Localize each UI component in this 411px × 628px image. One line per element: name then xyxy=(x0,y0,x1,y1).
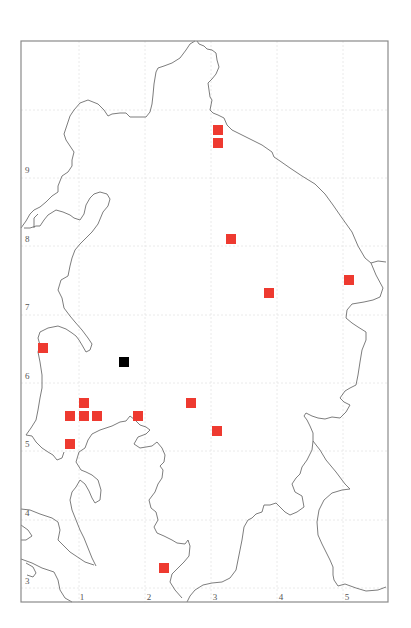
x-axis-label: 3 xyxy=(213,592,218,602)
record-marker-red xyxy=(212,426,222,436)
grid-lines xyxy=(21,41,388,602)
y-axis-label: 4 xyxy=(25,508,30,518)
coastline-east-bay xyxy=(313,441,386,591)
record-marker-red xyxy=(92,411,102,421)
coastline-north-peninsula xyxy=(197,41,386,263)
x-axis-label: 4 xyxy=(279,592,284,602)
record-marker-red xyxy=(65,439,75,449)
record-marker-red xyxy=(264,288,274,298)
record-marker-black xyxy=(119,357,129,367)
x-axis-label: 5 xyxy=(345,592,350,602)
coastline-w-small xyxy=(21,525,32,540)
map-canvas: 123459876543 xyxy=(0,0,411,628)
y-axis-label: 5 xyxy=(25,439,30,449)
x-axis-label: 1 xyxy=(80,592,85,602)
y-axis-label: 9 xyxy=(25,165,30,175)
y-axis-label: 6 xyxy=(25,371,30,381)
coastline xyxy=(21,41,386,602)
record-marker-red xyxy=(79,411,89,421)
record-marker-red xyxy=(186,398,196,408)
record-markers xyxy=(38,125,354,573)
record-marker-red xyxy=(65,411,75,421)
coastline-south-inlet xyxy=(70,416,157,566)
y-axis-label: 8 xyxy=(25,234,30,244)
y-axis-label: 7 xyxy=(25,302,30,312)
record-marker-red xyxy=(226,234,236,244)
coastline-northwest xyxy=(21,41,195,228)
axis-labels: 123459876543 xyxy=(25,165,350,602)
record-marker-red xyxy=(38,343,48,353)
record-marker-red xyxy=(159,563,169,573)
record-marker-red xyxy=(79,398,89,408)
record-marker-red xyxy=(344,275,354,285)
map-frame xyxy=(21,41,388,602)
record-marker-red xyxy=(213,125,223,135)
y-axis-label: 3 xyxy=(25,576,30,586)
record-marker-red xyxy=(133,411,143,421)
distribution-map: 123459876543 xyxy=(0,0,411,628)
x-axis-label: 2 xyxy=(147,592,152,602)
record-marker-red xyxy=(213,138,223,148)
